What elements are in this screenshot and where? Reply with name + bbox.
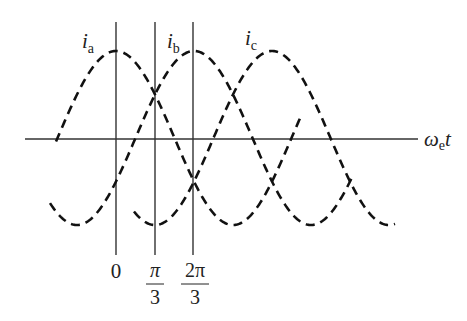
three-phase-waveform-diagram: ia ib ic ωet 0 π 3 2π 3: [0, 0, 467, 321]
current-ib-waveform: [50, 51, 352, 225]
marker-label-pi-3-numerator: π: [150, 259, 161, 281]
marker-label-0: 0: [111, 259, 122, 283]
current-ic-waveform: [134, 51, 395, 225]
label-ib: ib: [167, 29, 180, 56]
label-ia: ia: [82, 29, 95, 56]
marker-label-pi-3-denominator: 3: [150, 286, 160, 308]
axis-label-omega-e-t: ωet: [424, 127, 452, 153]
current-ia-waveform: [56, 51, 300, 225]
marker-label-2pi-3-numerator: 2π: [185, 259, 205, 281]
marker-label-2pi-3-denominator: 3: [190, 286, 200, 308]
label-ic: ic: [245, 26, 257, 53]
